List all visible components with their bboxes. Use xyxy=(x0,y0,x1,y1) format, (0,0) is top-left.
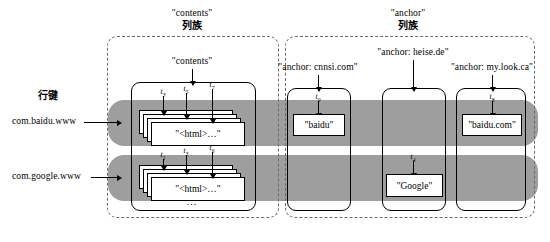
contents-cell-google-value: "<html>…" xyxy=(151,177,245,201)
timestamp-contents-google-1-arrow xyxy=(163,159,164,167)
timestamp-anchor-heise-google-arrow xyxy=(413,161,414,174)
qualifier-anchor-cnnsi-label: "anchor: cnnsi.com" xyxy=(278,62,357,73)
timestamp-contents-baidu-3-arrow xyxy=(212,89,213,120)
cf-anchor-title-cn: 列族 xyxy=(398,20,418,31)
qualifier-anchor-mylook-label: "anchor: my.look.ca" xyxy=(451,62,533,73)
timestamp-anchor-mylook-baiducom-arrow xyxy=(492,101,493,114)
timestamp-anchor-cnnsi-baidu-arrow xyxy=(318,101,319,114)
column-box-anchor-cnnsi xyxy=(287,88,351,211)
row-key-google: com.google.www xyxy=(12,171,81,182)
contents-cell-baidu-value: "<html>…" xyxy=(151,122,245,146)
row-key-baidu-arrow xyxy=(84,122,118,123)
timestamp-contents-baidu-1-arrow xyxy=(163,96,164,112)
cf-contents-title: "contents" xyxy=(172,8,212,19)
row-key-heading: 行键 xyxy=(38,90,58,101)
column-box-anchor-mylook xyxy=(456,88,526,211)
qualifier-anchor-mylook-arrow xyxy=(492,75,493,88)
qualifier-contents-label: "contents" xyxy=(172,56,212,67)
timestamp-contents-baidu-2-arrow xyxy=(186,93,187,116)
cf-contents-title-cn: 列族 xyxy=(182,20,202,31)
anchor-heise-cell-google-value: "Google" xyxy=(386,174,443,197)
qualifier-anchor-heise-arrow xyxy=(413,60,414,88)
qualifier-anchor-cnnsi-arrow xyxy=(318,75,319,88)
row-key-baidu: com.baidu.www xyxy=(12,116,76,127)
cf-anchor-title: "anchor" xyxy=(391,8,425,19)
anchor-mylook-cell-baiducom-value: "baidu.com" xyxy=(462,114,522,136)
timestamp-contents-google-3-arrow xyxy=(212,152,213,175)
anchor-cnnsi-cell-baidu-value: "baidu" xyxy=(293,114,345,136)
bigtable-data-model-diagram: "contents" 列族 "contents" "<html>…" t3 t5… xyxy=(0,0,550,242)
qualifier-anchor-heise-label: "anchor: heise.de" xyxy=(377,47,448,58)
timestamp-contents-google-2-arrow xyxy=(186,155,187,171)
qualifier-contents-arrow xyxy=(192,69,193,82)
contents-column-ellipsis: ... xyxy=(187,196,198,207)
row-key-google-arrow xyxy=(91,177,118,178)
